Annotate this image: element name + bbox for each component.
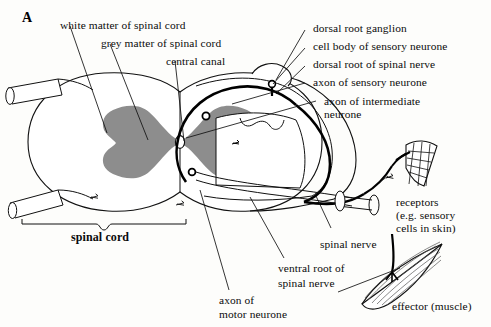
figure-canvas: A white matter of spinal cord grey matte… [0, 0, 491, 327]
label-ventral-root-line2: spinal nerve [278, 277, 335, 290]
label-axon-of-sensory-neurone: axon of sensory neurone [313, 76, 427, 89]
label-dorsal-root-ganglion: dorsal root ganglion [313, 22, 407, 35]
label-central-canal: central canal [166, 55, 225, 68]
label-spinal-nerve: spinal nerve [320, 238, 377, 251]
label-white-matter: white matter of spinal cord [60, 19, 185, 32]
label-receptors-line1: receptors [396, 196, 439, 209]
label-spinal-cord: spinal cord [71, 231, 129, 244]
label-dorsal-root-of-spinal-nerve: dorsal root of spinal nerve [313, 58, 435, 71]
label-ventral-root-line1: ventral root of [278, 262, 345, 275]
panel-letter: A [22, 10, 32, 26]
label-axon-of-intermediate-neurone-line2: neurone [324, 108, 361, 121]
label-axon-of-motor-neurone-line2: motor neurone [219, 308, 287, 321]
spinal-nerve-trunk [335, 191, 379, 215]
label-receptors-line2: (e.g. sensory [396, 209, 455, 222]
label-axon-of-intermediate-neurone-line1: axon of intermediate [324, 95, 420, 108]
label-grey-matter: grey matter of spinal cord [101, 37, 221, 50]
label-cell-body-sensory-neurone: cell body of sensory neurone [313, 40, 447, 53]
spinal-cord-brace [22, 219, 186, 230]
label-axon-of-motor-neurone-line1: axon of [219, 294, 254, 307]
label-receptors-line3: cells in skin) [396, 222, 456, 235]
label-effector-muscle: effector (muscle) [392, 300, 472, 313]
